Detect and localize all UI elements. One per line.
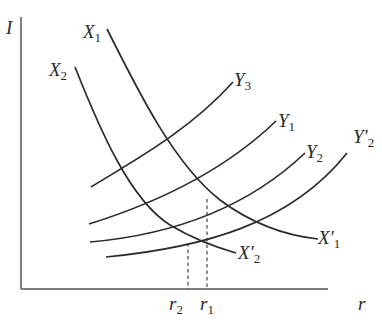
x-prime-1-label: X'1 <box>317 227 340 251</box>
x-axis-label: r <box>358 293 366 314</box>
diagram-canvas: I r r2 r1 X1 X2 X'1 X'2 Y3 Y1 Y2 Y'2 <box>0 0 382 331</box>
x1-label: X1 <box>82 21 101 45</box>
y1-curve <box>89 121 276 224</box>
x1-curve <box>107 29 318 239</box>
x2-curve <box>75 67 236 253</box>
x-prime-2-label: X'2 <box>237 242 260 266</box>
y3-curve <box>91 82 233 187</box>
r1-label: r1 <box>200 293 214 317</box>
y2-label: Y2 <box>306 141 323 165</box>
y1-label: Y1 <box>278 110 295 134</box>
y-axis-label: I <box>5 17 14 38</box>
y-prime-2-label: Y'2 <box>353 126 374 150</box>
x2-label: X2 <box>48 59 67 83</box>
y3-label: Y3 <box>234 69 251 93</box>
r2-label: r2 <box>169 293 183 317</box>
